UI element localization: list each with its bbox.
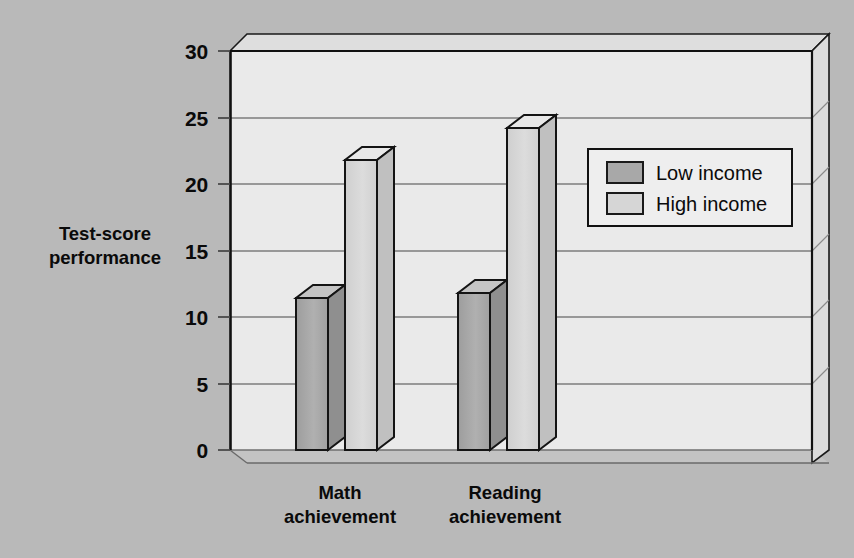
bar-reading-low-income xyxy=(458,280,507,450)
chart-top-bevel xyxy=(230,34,829,51)
y-tick-label-10: 10 xyxy=(162,307,208,328)
legend-label-high-income: High income xyxy=(656,194,767,214)
category-label-reading-line1: Reading xyxy=(415,481,595,505)
bar-math-high-income xyxy=(345,147,394,450)
y-tick-label-0: 0 xyxy=(162,440,208,461)
y-axis-ticks xyxy=(218,51,230,450)
category-label-math-line2: achievement xyxy=(250,505,430,529)
category-label-math-line1: Math xyxy=(250,481,430,505)
legend-swatch-low-income xyxy=(606,161,644,184)
legend-swatch-high-income xyxy=(606,192,644,215)
chart-legend: Low income High income xyxy=(587,148,793,227)
category-label-math: Math achievement xyxy=(250,481,430,529)
y-tick-label-20: 20 xyxy=(162,174,208,195)
legend-item-low-income: Low income xyxy=(606,157,791,188)
chart-screenshot: 30 25 20 15 10 5 0 Test-score performanc… xyxy=(0,0,854,558)
y-axis-title-line2: performance xyxy=(24,246,186,270)
category-label-reading-line2: achievement xyxy=(415,505,595,529)
y-tick-label-25: 25 xyxy=(162,108,208,129)
y-tick-label-5: 5 xyxy=(162,374,208,395)
legend-item-high-income: High income xyxy=(606,188,791,219)
y-axis-title-line1: Test-score xyxy=(24,222,186,246)
chart-floor-front xyxy=(230,450,829,463)
bar-reading-high-income xyxy=(507,115,556,450)
bar-chart-3d xyxy=(0,0,854,558)
bar-math-low-income xyxy=(296,285,345,450)
y-tick-label-30: 30 xyxy=(162,41,208,62)
y-axis-title: Test-score performance xyxy=(24,222,186,271)
category-label-reading: Reading achievement xyxy=(415,481,595,529)
legend-label-low-income: Low income xyxy=(656,163,763,183)
